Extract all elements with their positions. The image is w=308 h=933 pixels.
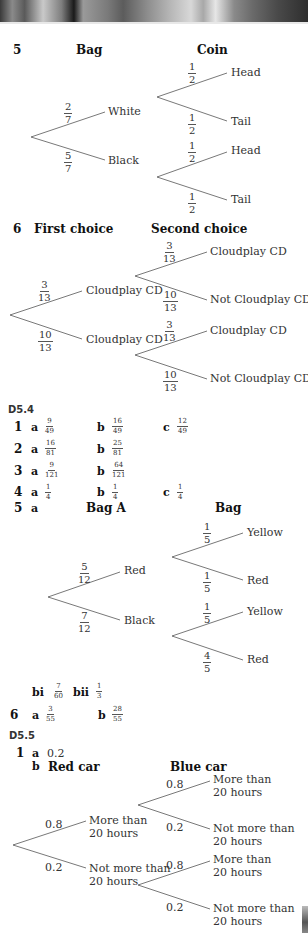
outcome-yellow-1: Yellow: [247, 527, 283, 539]
question-number: 5: [14, 502, 22, 514]
column-header-red-car: Red car: [48, 761, 100, 773]
outcome-first-cloudplay: Cloudplay CD: [86, 285, 163, 297]
answer-2a: 1681: [45, 440, 56, 457]
outcome-red-1: Red: [247, 575, 269, 587]
answer-6a: 355: [46, 706, 55, 723]
edge-photo: [302, 906, 308, 933]
outcome-tail-1: Tail: [231, 116, 251, 128]
answer-4b: 14: [112, 484, 118, 501]
outcome-blue-1-l2: 20 hours: [213, 787, 262, 799]
answer-3a: 9121: [45, 462, 58, 479]
prob-red-more: 0.8: [45, 819, 63, 831]
part-label: a: [31, 503, 38, 515]
part-label: a: [31, 466, 38, 478]
prob-blue-3: 0.8: [166, 860, 184, 872]
prob-second-4: 1013: [163, 370, 178, 393]
outcome-second-4: Not Cloudplay CD: [210, 373, 308, 385]
outcome-white: White: [108, 106, 141, 118]
outcome-first-cloudplay-2: Cloudplay CD: [86, 334, 163, 346]
answer-5bi: 760: [54, 683, 63, 700]
part-label: b: [97, 422, 105, 434]
prob-blue-1: 0.8: [166, 779, 184, 791]
prob-red: 512: [78, 562, 91, 585]
outcome-red-notmore-l1: Not more than: [89, 863, 171, 875]
outcome-head-2: Head: [231, 145, 261, 157]
outcome-second-2: Not Cloudplay CD: [210, 294, 308, 306]
part-label: a: [31, 422, 38, 434]
part-label-bii: bii: [73, 687, 89, 699]
prob-head-1: 12: [188, 62, 196, 85]
part-label: a: [31, 444, 38, 456]
answer-1c: 1249: [177, 418, 188, 435]
prob-black: 57: [64, 151, 72, 174]
outcome-blue-4-l1: Not more than: [213, 903, 295, 915]
part-label: a: [31, 487, 38, 499]
prob-tail-1: 12: [188, 113, 196, 136]
prob-red-notmore: 0.2: [45, 862, 63, 874]
prob-head-2: 12: [188, 141, 196, 164]
answer-1a: 949: [45, 418, 54, 435]
prob-second-2: 1013: [163, 290, 178, 313]
outcome-black: Black: [108, 155, 139, 167]
answer-4c: 14: [177, 484, 183, 501]
column-header-bag: Bag: [215, 502, 241, 514]
prob-red-1: 15: [203, 571, 211, 594]
question-number: 4: [14, 486, 22, 498]
question-number: 5: [13, 44, 21, 56]
prob-yellow-1: 15: [203, 522, 211, 545]
outcome-blue-2-l1: Not more than: [213, 823, 295, 835]
column-header-bag-a: Bag A: [86, 502, 126, 514]
part-label: c: [163, 487, 170, 499]
question-number: 6: [13, 223, 21, 235]
answer-6b: 2855: [112, 706, 123, 723]
outcome-tail-2: Tail: [231, 194, 251, 206]
column-header-blue-car: Blue car: [170, 761, 227, 773]
section-heading-d5-4: D5.4: [8, 404, 34, 415]
header-photo: [0, 0, 308, 24]
outcome-blue-2-l2: 20 hours: [213, 836, 262, 848]
column-header-coin: Coin: [197, 44, 228, 56]
part-label: b: [97, 466, 105, 478]
part-label: a: [32, 748, 39, 760]
outcome-yellow-2: Yellow: [247, 606, 283, 618]
section-heading-d5-5: D5.5: [9, 730, 35, 741]
outcome-red-notmore-l2: 20 hours: [89, 876, 138, 888]
answer-5bii: 13: [96, 683, 102, 700]
outcome-blue-3-l1: More than: [213, 854, 271, 866]
question-number: 3: [14, 465, 22, 477]
outcome-second-1: Cloudplay CD: [210, 246, 287, 258]
prob-blue-4: 0.2: [166, 902, 184, 914]
prob-blue-2: 0.2: [166, 822, 184, 834]
question-number: 6: [10, 709, 18, 721]
prob-tail-2: 12: [188, 192, 196, 215]
prob-black: 712: [78, 611, 91, 634]
prob-second-1: 313: [163, 241, 176, 264]
column-header-second-choice: Second choice: [151, 223, 247, 235]
part-label: a: [32, 710, 39, 722]
outcome-blue-1-l1: More than: [213, 774, 271, 786]
outcome-red-more-l1: More than: [89, 815, 147, 827]
outcome-red-2: Red: [247, 654, 269, 666]
outcome-black: Black: [124, 615, 155, 627]
answer-1a: 0.2: [47, 748, 65, 760]
prob-second-3: 313: [163, 320, 176, 343]
question-number: 2: [14, 443, 22, 455]
outcome-second-3: Cloudplay CD: [210, 325, 287, 337]
outcome-red: Red: [124, 565, 146, 577]
outcome-blue-4-l2: 20 hours: [213, 916, 262, 928]
prob-first-cloudplay-2: 1013: [38, 330, 53, 353]
part-label-bi: bi: [32, 687, 44, 699]
answer-4a: 14: [45, 484, 51, 501]
prob-yellow-2: 15: [203, 602, 211, 625]
answer-1b: 1649: [112, 418, 123, 435]
answer-2b: 2581: [112, 440, 123, 457]
part-label: c: [163, 422, 170, 434]
part-label: b: [32, 761, 40, 773]
part-label: b: [97, 487, 105, 499]
column-header-first-choice: First choice: [34, 223, 113, 235]
question-number: 1: [16, 747, 24, 759]
question-number: 1: [14, 421, 22, 433]
answer-3b: 64121: [112, 462, 125, 479]
outcome-head-1: Head: [231, 67, 261, 79]
part-label: b: [97, 444, 105, 456]
